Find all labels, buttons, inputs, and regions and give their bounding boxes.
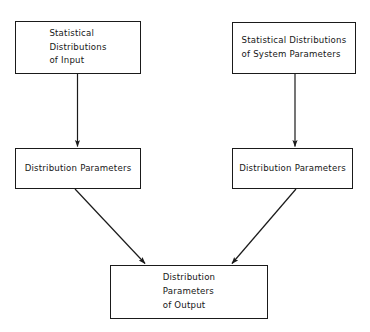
node-label-input: Statistical Distributions of Input (49, 27, 106, 69)
node-distribution-parameters-input: Distribution Parameters (15, 148, 141, 189)
node-statistical-distributions-of-system-parameters: Statistical Distributions of System Para… (232, 22, 356, 74)
node-distribution-parameters-system: Distribution Parameters (232, 148, 353, 189)
arrow-dp-left-to-output (75, 189, 145, 264)
arrow-dp-right-to-output (232, 189, 296, 264)
node-label-output: Distribution Parameters of Output (163, 271, 216, 313)
node-statistical-distributions-of-input: Statistical Distributions of Input (15, 21, 141, 74)
node-label-system: Statistical Distributions of System Para… (242, 34, 347, 62)
flow-diagram: Statistical Distributions of Input Stati… (0, 0, 370, 332)
node-label-dp-left: Distribution Parameters (25, 163, 132, 174)
node-label-dp-right: Distribution Parameters (239, 163, 346, 174)
node-distribution-parameters-of-output: Distribution Parameters of Output (110, 265, 268, 319)
